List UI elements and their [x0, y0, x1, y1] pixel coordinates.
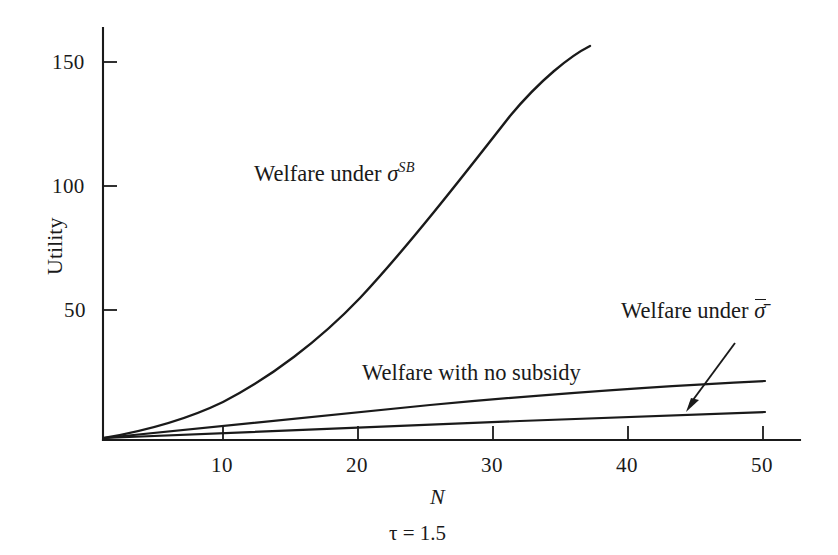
x-tick-label-40: 40 [616, 455, 638, 476]
annotation-sb-superscript: SB [398, 159, 415, 175]
x-axis-label: N [430, 486, 445, 508]
annotation-bar-prefix: Welfare under [621, 298, 754, 323]
sigma-bar-annotation-arrow [690, 343, 735, 404]
annotation-welfare-no-subsidy: Welfare with no subsidy [362, 362, 581, 385]
annotation-welfare-under-sigma-sb: Welfare under σSB [254, 160, 415, 185]
sigma-bar-arrowhead [686, 398, 699, 412]
y-tick-label-50: 50 [64, 300, 86, 321]
x-tick-label-50: 50 [751, 455, 773, 476]
x-tick-label-30: 30 [481, 455, 503, 476]
series-welfare-no-subsidy [104, 381, 765, 438]
figure-container: 150 100 50 Utility 10 20 30 40 50 N τ = … [0, 0, 838, 555]
figure-caption: τ = 1.5 [389, 523, 446, 544]
series-welfare-under-sigma-bar [104, 412, 765, 438]
annotation-sb-prefix: Welfare under [254, 161, 387, 186]
y-tick-label-150: 150 [52, 52, 85, 73]
chart-canvas [0, 0, 838, 555]
y-axis-label: Utility [44, 218, 66, 275]
annotation-sb-sigma: σ [387, 161, 398, 186]
x-tick-label-20: 20 [346, 455, 368, 476]
x-tick-label-10: 10 [211, 455, 233, 476]
annotation-bar-sigma: σ̄ [754, 300, 765, 323]
y-tick-label-100: 100 [52, 176, 85, 197]
annotation-welfare-under-sigma-bar: Welfare under σ̄ [621, 300, 765, 323]
